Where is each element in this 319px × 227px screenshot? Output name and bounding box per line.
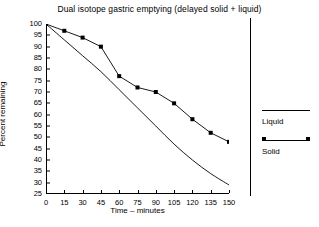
x-axis-label: Time – minutes bbox=[46, 206, 229, 215]
legend-swatch-line-icon bbox=[262, 106, 310, 114]
plot-area: 253035404550556065707580859095100 015304… bbox=[46, 24, 229, 194]
y-tick-label: 75 bbox=[34, 77, 46, 85]
data-point-marker bbox=[81, 36, 85, 40]
y-tick-label: 30 bbox=[34, 179, 46, 187]
data-point-marker bbox=[154, 90, 158, 94]
data-point-marker bbox=[227, 140, 229, 144]
data-point-marker bbox=[117, 74, 121, 78]
legend-label-solid: Solid bbox=[262, 147, 316, 156]
y-tick-label: 55 bbox=[34, 122, 46, 130]
legend-label-liquid: Liquid bbox=[262, 117, 316, 126]
y-tick-label: 70 bbox=[34, 88, 46, 96]
y-tick-label: 60 bbox=[34, 111, 46, 119]
series-plot bbox=[46, 24, 229, 194]
y-tick-label: 35 bbox=[34, 168, 46, 176]
data-point-marker bbox=[99, 45, 103, 49]
legend-item-solid: Solid bbox=[262, 136, 316, 156]
chart-title: Dual isotope gastric emptying (delayed s… bbox=[0, 4, 319, 14]
series-line-liquid bbox=[46, 24, 229, 185]
y-tick-label: 90 bbox=[34, 43, 46, 51]
y-tick-label: 45 bbox=[34, 145, 46, 153]
legend-item-liquid: Liquid bbox=[262, 106, 316, 126]
y-tick-label: 50 bbox=[34, 134, 46, 142]
y-tick-label: 100 bbox=[29, 20, 46, 28]
y-tick-label: 25 bbox=[34, 190, 46, 198]
chart-figure: Dual isotope gastric emptying (delayed s… bbox=[0, 0, 319, 227]
y-tick-label: 80 bbox=[34, 66, 46, 74]
y-axis-label: Percent remaining bbox=[0, 81, 7, 146]
data-point-marker bbox=[136, 85, 140, 89]
data-point-marker bbox=[62, 29, 66, 33]
data-point-marker bbox=[172, 101, 176, 105]
x-tick-mark bbox=[229, 190, 230, 193]
y-tick-label: 95 bbox=[34, 32, 46, 40]
data-point-marker bbox=[209, 131, 213, 135]
data-point-marker bbox=[46, 24, 48, 26]
chart-legend: Liquid Solid bbox=[262, 106, 316, 166]
y-tick-label: 65 bbox=[34, 100, 46, 108]
y-tick-label: 40 bbox=[34, 156, 46, 164]
y-tick-label: 85 bbox=[34, 54, 46, 62]
legend-divider bbox=[250, 18, 251, 196]
legend-swatch-line-marker-icon bbox=[262, 136, 310, 144]
data-point-marker bbox=[190, 117, 194, 121]
series-line-solid bbox=[46, 24, 229, 142]
